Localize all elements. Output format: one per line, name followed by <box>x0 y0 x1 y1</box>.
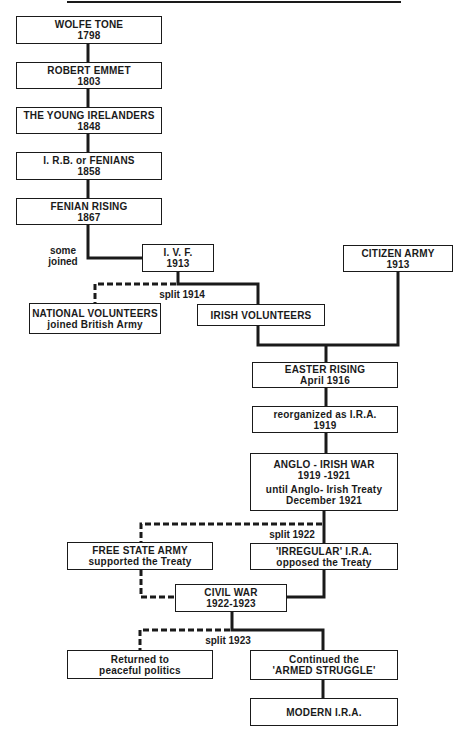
node-ivf: I. V. F. 1913 <box>142 244 214 272</box>
node-title: Returned to <box>111 654 169 665</box>
node-title: I. V. F. <box>163 247 192 258</box>
node-irish-volunteers: IRISH VOLUNTEERS <box>197 304 325 326</box>
node-title: CITIZEN ARMY <box>361 248 434 259</box>
node-young-irelanders: THE YOUNG IRELANDERS 1848 <box>16 107 162 134</box>
node-date: 1867 <box>77 212 100 223</box>
node-wolfe-tone: WOLFE TONE 1798 <box>16 16 162 44</box>
node-date: 1858 <box>77 166 100 177</box>
node-title: ANGLO - IRISH WAR <box>273 459 374 470</box>
node-citizen-army: CITIZEN ARMY 1913 <box>343 245 453 272</box>
node-title: MODERN I.R.A. <box>286 707 361 718</box>
node-date: 1913 <box>166 258 189 269</box>
node-subtitle: 'ARMED STRUGGLE' <box>273 665 376 676</box>
node-title: FENIAN RISING <box>50 201 127 212</box>
node-date: 1803 <box>77 76 100 87</box>
label-split-1922: split 1922 <box>264 529 320 540</box>
node-note: until Anglo- Irish Treaty <box>266 484 382 495</box>
node-title: FREE STATE ARMY <box>92 545 188 556</box>
node-date: April 1916 <box>300 375 350 386</box>
node-title: CIVIL WAR <box>204 587 257 598</box>
node-title: EASTER RISING <box>285 364 365 375</box>
label-split-1914: split 1914 <box>152 289 212 300</box>
node-irregular-ira: 'IRREGULAR' I.R.A. opposed the Treaty <box>250 543 398 570</box>
node-date: 1913 <box>386 259 409 270</box>
node-returned-politics: Returned to peaceful politics <box>67 650 213 679</box>
node-title: 'IRREGULAR' I.R.A. <box>276 546 372 557</box>
node-subtitle: peaceful politics <box>99 665 181 676</box>
node-title: IRISH VOLUNTEERS <box>211 310 312 321</box>
node-national-volunteers: NATIONAL VOLUNTEERS joined British Army <box>29 303 161 334</box>
node-title: WOLFE TONE <box>55 19 123 30</box>
node-anglo-irish-war: ANGLO - IRISH WAR 1919 -1921 until Anglo… <box>250 453 398 511</box>
node-title: NATIONAL VOLUNTEERS <box>32 308 158 319</box>
node-civil-war: CIVIL WAR 1922-1923 <box>175 584 287 612</box>
node-date: 1922-1923 <box>206 598 256 609</box>
node-fenian-rising: FENIAN RISING 1867 <box>16 198 162 225</box>
node-title: Continued the <box>289 654 359 665</box>
node-title: I. R.B. or FENIANS <box>43 155 134 166</box>
node-armed-struggle: Continued the 'ARMED STRUGGLE' <box>250 650 398 680</box>
node-subtitle: supported the Treaty <box>89 556 192 567</box>
node-date: 1919 <box>313 420 336 431</box>
node-modern-ira: MODERN I.R.A. <box>250 698 398 726</box>
node-title: reorganized as I.R.A. <box>273 409 376 420</box>
node-free-state-army: FREE STATE ARMY supported the Treaty <box>67 542 213 570</box>
node-subtitle: opposed the Treaty <box>276 557 371 568</box>
node-date: 1798 <box>77 30 100 41</box>
node-date: 1919 -1921 <box>298 470 351 481</box>
node-date: 1848 <box>77 121 100 132</box>
node-title: THE YOUNG IRELANDERS <box>23 110 154 121</box>
node-reorganized-ira: reorganized as I.R.A. 1919 <box>252 406 398 433</box>
node-title: ROBERT EMMET <box>47 65 131 76</box>
node-note-date: December 1921 <box>286 495 362 506</box>
node-irb-fenians: I. R.B. or FENIANS 1858 <box>16 152 162 180</box>
node-subtitle: joined British Army <box>47 319 143 330</box>
label-split-1923: split 1923 <box>200 635 256 646</box>
node-robert-emmet: ROBERT EMMET 1803 <box>16 62 162 89</box>
node-easter-rising: EASTER RISING April 1916 <box>252 362 398 388</box>
label-some-joined: some joined <box>44 245 82 267</box>
